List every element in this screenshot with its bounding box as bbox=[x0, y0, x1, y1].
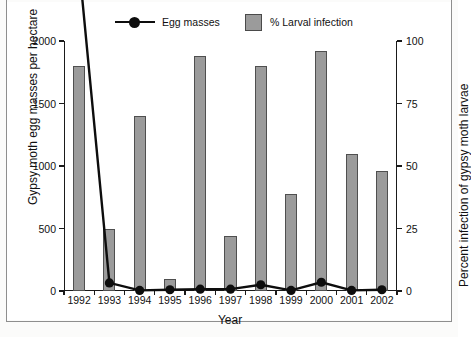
y-axis-right-tick-label: 100 bbox=[406, 35, 424, 47]
x-axis-tick-label: 1999 bbox=[279, 294, 302, 306]
y-axis-right-tick-label: 50 bbox=[406, 160, 418, 172]
y-axis-left-title: Gypsy moth egg masses per hectare bbox=[26, 9, 40, 205]
x-axis-tick-label: 1992 bbox=[67, 294, 90, 306]
data-point-marker bbox=[377, 285, 386, 294]
legend-item-larval-infection: % Larval infection bbox=[245, 14, 353, 30]
page-border-right bbox=[451, 0, 452, 322]
circle-marker-icon bbox=[129, 17, 140, 28]
data-point-marker bbox=[165, 285, 174, 294]
y-axis-right-tick bbox=[397, 103, 402, 104]
data-point-marker bbox=[226, 285, 235, 294]
figure-caption-faint bbox=[14, 326, 450, 336]
x-axis-tick-label: 2002 bbox=[370, 294, 393, 306]
data-point-marker bbox=[317, 278, 326, 287]
plot-area: 0500100015002000 0255075100 199219931994… bbox=[64, 41, 397, 291]
data-point-marker bbox=[256, 280, 265, 289]
data-point-marker bbox=[347, 286, 356, 295]
y-axis-right-tick-label: 0 bbox=[406, 285, 412, 297]
y-axis-right-tick bbox=[397, 228, 402, 229]
x-axis-tick-label: 1997 bbox=[219, 294, 242, 306]
line-series-egg-masses bbox=[64, 41, 397, 291]
x-axis-tick-label: 1996 bbox=[189, 294, 212, 306]
legend-label-egg-masses: Egg masses bbox=[162, 16, 220, 28]
legend-label-larval-infection: % Larval infection bbox=[270, 16, 353, 28]
x-axis-tick-label: 1995 bbox=[158, 294, 181, 306]
data-point-marker bbox=[286, 286, 295, 295]
y-axis-right-tick-label: 75 bbox=[406, 98, 418, 110]
x-axis-tick-label: 2000 bbox=[310, 294, 333, 306]
x-axis-tick-label: 1994 bbox=[128, 294, 151, 306]
data-point-marker bbox=[105, 278, 114, 287]
y-axis-right-tick bbox=[397, 40, 402, 41]
y-axis-left-tick-label: 500 bbox=[38, 223, 56, 235]
y-axis-right-title: Percent infection of gypsy moth larvae bbox=[457, 84, 471, 287]
y-axis-left-tick-label: 0 bbox=[50, 285, 56, 297]
x-axis-tick-label: 2001 bbox=[340, 294, 363, 306]
chart-legend: Egg masses % Larval infection bbox=[7, 14, 451, 34]
line-marker-icon bbox=[115, 17, 155, 28]
y-axis-right-tick bbox=[397, 165, 402, 166]
chart-figure: Egg masses % Larval infection 0500100015… bbox=[7, 2, 451, 320]
legend-item-egg-masses: Egg masses bbox=[115, 14, 220, 30]
y-axis-right-tick bbox=[397, 290, 402, 291]
plot-inner: 0500100015002000 0255075100 199219931994… bbox=[64, 41, 397, 291]
data-point-marker bbox=[196, 285, 205, 294]
x-axis-title: Year bbox=[218, 313, 242, 327]
bar-swatch-icon bbox=[245, 14, 262, 31]
egg-masses-polyline bbox=[79, 0, 382, 290]
x-axis-tick-label: 1998 bbox=[249, 294, 272, 306]
x-axis-tick-label: 1993 bbox=[98, 294, 121, 306]
y-axis-right-tick-label: 25 bbox=[406, 223, 418, 235]
data-point-marker bbox=[135, 286, 144, 295]
